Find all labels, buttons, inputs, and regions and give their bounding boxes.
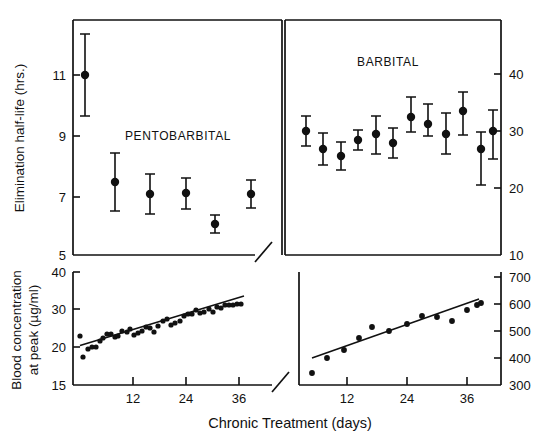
y-tick-label-5: 5 (59, 248, 66, 263)
panel-bottom-left: 40 30 20 15 Blood concentration at peak … (9, 265, 289, 406)
axis-break-top-left (255, 242, 272, 262)
multi-panel-figure: 11 9 7 5 Elimination half-life (hrs.) PE… (0, 0, 543, 445)
y-tick-label-20-bl: 20 (52, 340, 66, 355)
datapoints-pentobarbital (81, 71, 255, 228)
panel-bottom-right: 700 600 500 400 300 12 24 36 (299, 270, 531, 406)
x-tick-label-36-bl: 36 (232, 391, 246, 406)
y-axis-title-top-left: Elimination half-life (hrs.) (12, 64, 27, 213)
errorbars-barbital (301, 92, 498, 185)
y-tick-label-300: 300 (509, 378, 531, 393)
y-tick-label-7: 7 (59, 190, 66, 205)
axis-break-bottom-left (272, 372, 289, 392)
y-tick-label-400: 400 (509, 351, 531, 366)
y-tick-label-11: 11 (53, 68, 67, 83)
x-tick-label-24-br: 24 (400, 391, 414, 406)
y-tick-label-40: 40 (509, 67, 523, 82)
y-tick-label-30-bl: 30 (52, 302, 66, 317)
y-tick-label-600: 600 (509, 297, 531, 312)
y-tick-label-9: 9 (59, 129, 66, 144)
panel-label-pentobarbital: PENTOBARBITAL (125, 129, 231, 143)
y-tick-label-20: 20 (509, 181, 523, 196)
panel-bottom-right-y-ticks (494, 277, 501, 358)
trendline-bottom-right (312, 299, 479, 358)
figure-container: 11 9 7 5 Elimination half-life (hrs.) PE… (0, 0, 543, 445)
panel-bottom-right-x-ticks (347, 377, 467, 385)
y-tick-label-700: 700 (509, 270, 531, 285)
x-tick-label-24-bl: 24 (179, 391, 193, 406)
y-axis-title-bottom-left-line2: at peak (µg/ml) (26, 285, 41, 375)
panel-top-left: 11 9 7 5 Elimination half-life (hrs.) PE… (12, 20, 282, 263)
x-tick-label-12-br: 12 (340, 391, 354, 406)
y-axis-title-bottom-left-line1: Blood concentration (9, 270, 24, 389)
datapoints-barbital (302, 107, 497, 160)
panel-bottom-left-x-ticks (133, 377, 239, 385)
y-tick-label-15-bl: 15 (52, 378, 66, 393)
panel-top-left-y-ticks (73, 75, 80, 197)
datapoints-bottom-right (309, 300, 484, 376)
datapoints-bottom-left (77, 301, 243, 359)
x-axis-title: Chronic Treatment (days) (208, 415, 372, 431)
x-tick-label-36-br: 36 (460, 391, 474, 406)
y-tick-label-500: 500 (509, 324, 531, 339)
x-tick-label-12-bl: 12 (126, 391, 140, 406)
y-tick-label-30: 30 (509, 124, 523, 139)
y-tick-label-10: 10 (509, 248, 523, 263)
y-tick-label-40-bl: 40 (52, 265, 66, 280)
panel-label-barbital: BARBITAL (357, 55, 419, 69)
panel-top-right: 40 30 20 10 BARBITAL (285, 20, 523, 263)
